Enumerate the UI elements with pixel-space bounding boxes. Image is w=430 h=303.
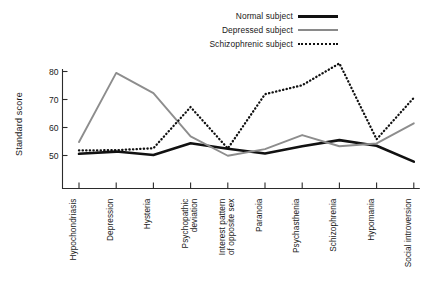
x-category-label-4-line-0: Interest pattern [218, 198, 227, 255]
series-line-normal-subject [79, 140, 414, 162]
x-category-label-1: Depression [106, 198, 115, 241]
y-tick-label-50: 50 [49, 151, 59, 161]
chart-plot-area: 80706050 HypochondriasisDepressionHyster… [0, 0, 430, 303]
y-axis-ticks: 80706050 [49, 67, 68, 161]
data-series-group [79, 63, 414, 161]
x-axis-category-labels: HypochondriasisDepressionHysteriaPsychop… [69, 198, 413, 267]
y-tick-label-60: 60 [49, 123, 59, 133]
x-category-label-9: Social introversion [404, 198, 413, 267]
x-category-label-6: Psychasthenia [292, 198, 301, 253]
x-category-label-4-line-1: of opposite sex [227, 199, 236, 256]
x-category-label-5: Paranoia [255, 198, 264, 232]
x-category-label-8: Hypomania [367, 198, 376, 241]
y-tick-label-80: 80 [49, 67, 59, 77]
x-axis-ticks [79, 183, 414, 189]
x-category-label-0: Hypochondriasis [69, 199, 78, 261]
y-tick-label-70: 70 [49, 95, 59, 105]
x-category-label-2: Hysteria [143, 198, 152, 229]
series-line-schizophrenic-subject [79, 63, 414, 150]
x-category-label-7: Schizophrenia [329, 198, 338, 252]
x-category-label-3-line-1: deviation [190, 198, 199, 232]
chart-figure: Normal subject Depressed subject Schizop… [0, 0, 430, 303]
x-category-label-3-line-0: Psychopathic [181, 199, 190, 249]
